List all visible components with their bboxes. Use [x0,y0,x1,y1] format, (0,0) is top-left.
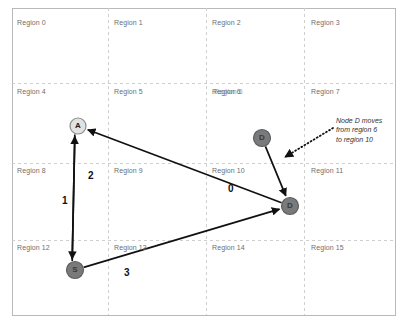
region-label-2: Region 2 [212,19,241,26]
edge-layer [72,130,286,268]
region-label-1: Region 1 [114,19,143,26]
edge-emove [265,146,285,196]
node-A[interactable] [70,118,86,134]
region-label-13: Region 13 [114,244,147,251]
region-label-11: Region 11 [311,167,343,174]
region-label-8: Region 8 [17,167,46,174]
node-d-move-annotation: Node D movesfrom region 6to region 10 [336,116,382,144]
region-label-4: Region 4 [17,88,46,95]
edge-label-e2: 2 [88,170,94,181]
node-D2[interactable] [282,198,299,215]
annotation-pointer [285,128,333,157]
region-label-6-overlap: Region 6 [214,88,243,95]
region-mobility-diagram: Region 0Region 1Region 2Region 3Region 4… [0,0,414,328]
annotation-line-2: to region 10 [336,135,382,144]
region-label-15: Region 15 [311,244,344,251]
region-label-10: Region 10 [212,167,245,174]
region-label-3: Region 3 [311,19,340,26]
node-S[interactable] [67,262,84,279]
region-label-9: Region 9 [114,167,143,174]
node-D1[interactable] [254,130,271,147]
diagram-canvas [0,0,414,328]
annotation-line-1: from region 6 [336,125,382,134]
region-label-14: Region 14 [212,244,245,251]
region-label-5: Region 5 [114,88,143,95]
edge-label-e1: 1 [62,195,68,206]
annotation-pointer-line [285,128,333,157]
region-label-0: Region 0 [17,19,46,26]
edge-label-e0: 0 [228,183,234,194]
edge-label-e3: 3 [124,267,130,278]
region-label-12: Region 12 [17,244,50,251]
annotation-line-0: Node D moves [336,116,382,125]
edge-e3 [84,209,280,267]
node-layer [67,118,299,279]
region-label-7: Region 7 [311,88,340,95]
